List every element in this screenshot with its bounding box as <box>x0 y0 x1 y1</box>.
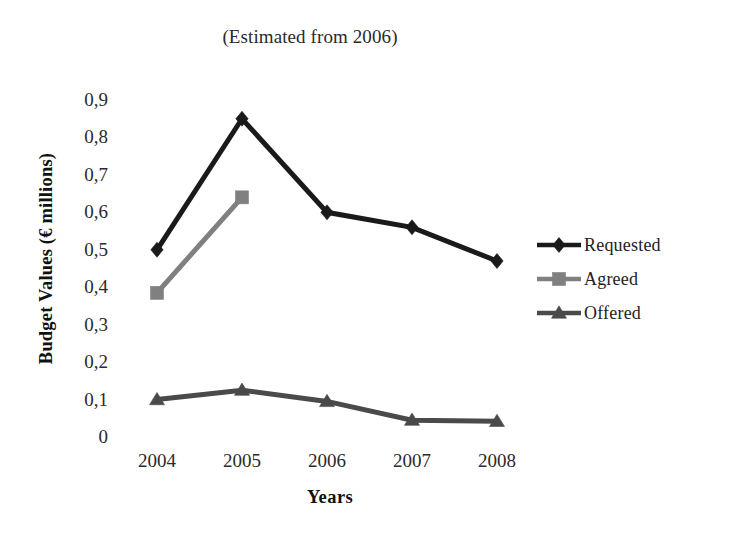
series-line <box>157 119 497 261</box>
legend-item-offered: Offered <box>536 296 726 330</box>
chart-container: (Estimated from 2006) Budget Values (€ m… <box>0 0 733 551</box>
x-axis-tick-label: 2007 <box>377 450 447 472</box>
legend-marker-triangle-icon <box>536 303 582 323</box>
series-offered <box>150 383 505 426</box>
x-axis-tick-label: 2008 <box>462 450 532 472</box>
x-axis-tick-label: 2006 <box>292 450 362 472</box>
series-agreed <box>151 191 249 299</box>
legend-item-agreed: Agreed <box>536 262 726 296</box>
data-point-marker <box>151 286 164 299</box>
legend-marker-diamond-icon <box>536 235 582 255</box>
legend-label: Offered <box>582 303 641 324</box>
x-axis-tick-label: 2004 <box>122 450 192 472</box>
data-point-marker <box>491 254 503 269</box>
series-requested <box>151 111 503 268</box>
legend-label: Requested <box>582 235 661 256</box>
x-axis-title: Years <box>140 487 520 508</box>
data-point-marker <box>406 220 418 235</box>
legend-marker-square-icon <box>536 269 582 289</box>
data-point-marker <box>236 191 249 204</box>
legend-item-requested: Requested <box>536 228 726 262</box>
chart-legend: RequestedAgreedOffered <box>536 228 726 330</box>
series-line <box>157 197 242 292</box>
legend-label: Agreed <box>582 269 638 290</box>
x-axis-tick-label: 2005 <box>207 450 277 472</box>
